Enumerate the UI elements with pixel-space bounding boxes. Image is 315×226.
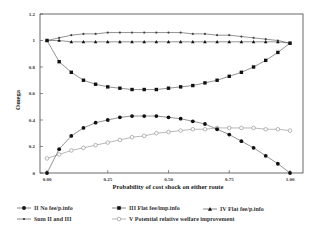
series-line [47, 116, 290, 173]
legend-label: V Potential relative welfare improvement [129, 216, 235, 222]
y-tick-label: 0.2 [29, 144, 36, 149]
x-axis-label: Probability of cost shock on either rout… [113, 183, 224, 190]
y-tick-label: 0.6 [29, 91, 36, 96]
small-dot-marker-icon [17, 216, 31, 222]
legend-label: Sum II and III [34, 216, 72, 222]
series-line [47, 41, 290, 90]
y-axis: 00.20.40.60.811.2 [29, 12, 43, 176]
open-circle-marker-icon [112, 216, 126, 222]
x-tick-label: 0.50 [164, 177, 173, 182]
legend-label: IV Flat fee/p.info [220, 206, 264, 212]
series-group [45, 31, 292, 174]
plot-frame [40, 14, 303, 173]
legend-label: II No fee/p.info [34, 205, 73, 211]
x-tick-label: 1.00 [286, 177, 295, 182]
y-axis-label: Omega [14, 89, 21, 110]
filled-circle-marker-icon [17, 205, 31, 211]
x-tick-label: 0.00 [43, 177, 52, 182]
y-tick-label: 0.8 [29, 65, 36, 70]
filled-square-marker-icon [112, 205, 126, 211]
legend-item-iv: IV Flat fee/p.info [203, 206, 264, 212]
x-tick-label: 0.25 [103, 177, 112, 182]
y-tick-label: 0.4 [29, 118, 36, 123]
x-tick-label: 0.75 [225, 177, 234, 182]
legend-item-ii: II No fee/p.info [17, 205, 73, 211]
x-axis: 0.000.250.500.751.00 [43, 170, 295, 182]
line-chart: 00.20.40.60.811.2 0.000.250.500.751.00 O… [0, 0, 315, 226]
y-tick-label: 1.2 [29, 12, 36, 17]
y-tick-label: 1 [33, 38, 36, 43]
legend-item-v: V Potential relative welfare improvement [112, 216, 235, 222]
legend-item-sum: Sum II and III [17, 216, 72, 222]
legend-item-iii: III Flat fee/imp.info [112, 205, 180, 211]
legend-label: III Flat fee/imp.info [129, 205, 180, 211]
y-tick-label: 0 [33, 171, 36, 176]
triangle-marker-icon [203, 206, 217, 212]
